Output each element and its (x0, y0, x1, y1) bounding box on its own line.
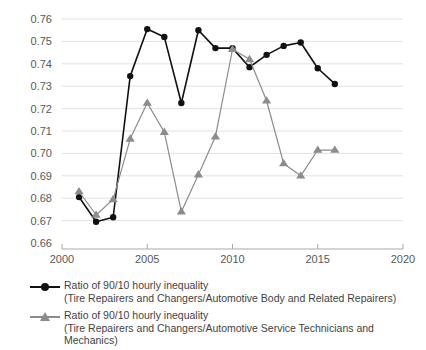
data-point-marker (279, 159, 288, 166)
y-axis-tick-label: 0.69 (31, 170, 52, 182)
data-point-marker (298, 39, 304, 45)
data-point-marker (74, 187, 83, 194)
data-point-marker (332, 81, 338, 87)
data-point-marker (212, 45, 218, 51)
data-point-marker (110, 214, 116, 220)
x-axis-tick-label: 2000 (50, 253, 74, 265)
y-axis-tick-label: 0.66 (31, 237, 52, 249)
y-axis-tick-label: 0.70 (31, 147, 52, 159)
line-chart-plot: 0.660.670.680.690.700.710.720.730.740.75… (0, 0, 426, 275)
legend-item-gray: Ratio of 90/10 hourly inequality (Tire R… (28, 309, 426, 347)
data-point-marker (126, 134, 135, 141)
y-axis-tick-label: 0.72 (31, 103, 52, 115)
x-axis-tick-label: 2020 (391, 253, 415, 265)
y-axis-tick-label: 0.75 (31, 35, 52, 47)
legend-label-black: Ratio of 90/10 hourly inequality (64, 279, 208, 291)
data-point-marker (330, 145, 339, 152)
x-axis-tick-label: 2005 (135, 253, 159, 265)
y-axis-tick-label: 0.71 (31, 125, 52, 137)
data-point-marker (143, 98, 152, 105)
data-point-marker (144, 26, 150, 32)
chart-legend: Ratio of 90/10 hourly inequality (Tire R… (28, 279, 426, 350)
data-point-marker (313, 145, 322, 152)
data-point-marker (93, 219, 99, 225)
data-point-marker (262, 96, 271, 103)
data-point-marker (315, 65, 321, 71)
legend-marker-circle-line-icon (28, 280, 64, 293)
legend-label-gray-group: Ratio of 90/10 hourly inequality (Tire R… (64, 309, 426, 347)
data-point-marker (245, 55, 254, 62)
series-line-gray (79, 49, 335, 215)
series-line-black (79, 29, 335, 222)
legend-label-black-group: Ratio of 90/10 hourly inequality (Tire R… (64, 279, 396, 304)
y-axis-tick-label: 0.68 (31, 192, 52, 204)
x-axis-tick-label: 2010 (220, 253, 244, 265)
data-point-marker (280, 43, 286, 49)
y-axis-tick-label: 0.73 (31, 80, 52, 92)
legend-marker-triangle-line-icon (28, 310, 64, 323)
data-point-marker (211, 132, 220, 139)
data-point-marker (194, 170, 203, 177)
data-point-marker (195, 27, 201, 33)
y-axis-tick-label: 0.74 (31, 58, 52, 70)
y-axis-tick-label: 0.76 (31, 13, 52, 25)
legend-label-gray: Ratio of 90/10 hourly inequality (64, 309, 208, 321)
y-axis-tick-label: 0.67 (31, 215, 52, 227)
data-point-marker (127, 73, 133, 79)
legend-item-black: Ratio of 90/10 hourly inequality (Tire R… (28, 279, 426, 304)
data-point-marker (263, 52, 269, 58)
legend-sublabel-gray: (Tire Repairers and Changers/Automotive … (64, 322, 426, 347)
data-point-marker (161, 34, 167, 40)
data-point-marker (177, 207, 186, 214)
data-point-marker (296, 171, 305, 178)
x-axis-tick-label: 2015 (306, 253, 330, 265)
legend-sublabel-black: (Tire Repairers and Changers/Automotive … (64, 292, 396, 305)
data-point-marker (178, 100, 184, 106)
